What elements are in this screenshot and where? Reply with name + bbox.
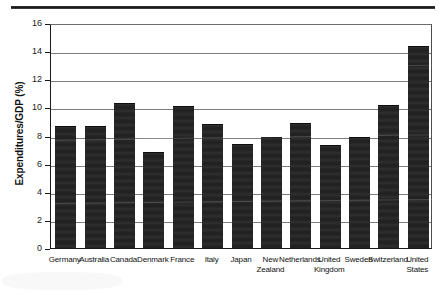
y-tick-label-6: 6 xyxy=(18,160,42,169)
bar-germany xyxy=(55,126,76,248)
x-axis-label-united-states: United States xyxy=(394,255,440,274)
bar-chart-figure: Expenditures/GDP (%) 0246810121416 Germa… xyxy=(0,0,443,295)
bar-sweden xyxy=(349,137,370,248)
bar-switzerland xyxy=(378,105,399,248)
bar-italy xyxy=(202,124,223,248)
y-tick-label-12: 12 xyxy=(18,75,42,84)
y-tick-0 xyxy=(45,249,50,250)
gridline-10 xyxy=(51,109,431,110)
gridline-14 xyxy=(51,53,431,54)
y-tick-label-10: 10 xyxy=(18,103,42,112)
bar-australia xyxy=(85,126,106,248)
y-tick-label-14: 14 xyxy=(18,47,42,56)
bar-united-states xyxy=(408,46,429,249)
bar-japan xyxy=(232,144,253,248)
bar-france xyxy=(173,106,194,248)
y-tick-label-8: 8 xyxy=(18,132,42,141)
gridline-8 xyxy=(51,138,431,139)
bar-netherlands xyxy=(290,123,311,248)
y-tick-label-4: 4 xyxy=(18,188,42,197)
gridline-12 xyxy=(51,81,431,82)
bar-canada xyxy=(114,103,135,248)
y-tick-label-2: 2 xyxy=(18,216,42,225)
scan-artifact xyxy=(51,65,433,71)
scan-smudge xyxy=(2,272,122,290)
y-tick-label-0: 0 xyxy=(18,244,42,253)
top-horizontal-rule xyxy=(11,6,435,9)
bar-new-zealand xyxy=(261,137,282,248)
y-tick-label-16: 16 xyxy=(18,19,42,28)
bar-united-kingdom xyxy=(320,145,341,248)
plot-area xyxy=(50,24,432,249)
bar-denmark xyxy=(143,152,164,248)
